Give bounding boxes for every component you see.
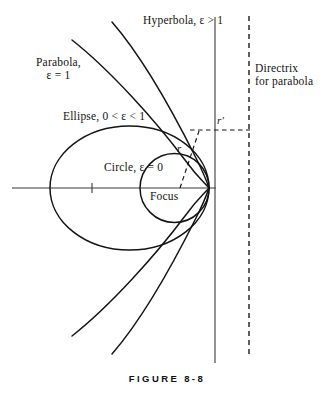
label-parabola-line1: Parabola,	[36, 56, 81, 68]
label-directrix: Directrix for parabola	[255, 62, 313, 88]
label-focus: Focus	[150, 190, 178, 203]
label-hyperbola: Hyperbola, ε > 1	[143, 14, 223, 27]
label-directrix-distance-rprime: r′	[217, 114, 224, 127]
label-directrix-line1: Directrix	[255, 62, 298, 74]
label-circle: Circle, ε = 0	[104, 161, 163, 174]
label-ellipse: Ellipse, 0 < ε < 1	[63, 110, 145, 123]
label-parabola: Parabola, ε = 1	[36, 56, 81, 82]
label-parabola-line2: ε = 1	[47, 69, 71, 81]
label-focal-radius-r: r	[177, 142, 181, 155]
figure-container: Hyperbola, ε > 1 Parabola, ε = 1 Ellipse…	[0, 0, 334, 408]
figure-caption: FIGURE 8-8	[0, 373, 334, 384]
label-directrix-line2: for parabola	[255, 75, 313, 87]
